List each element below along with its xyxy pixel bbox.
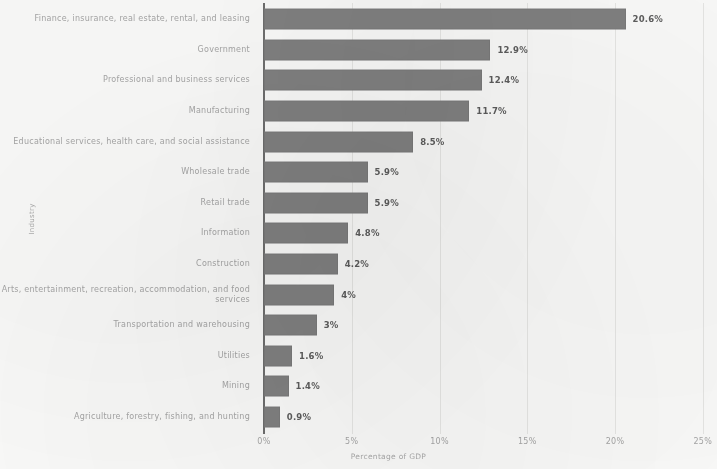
table-row: Professional and business services12.4%: [0, 65, 717, 96]
bar: [264, 376, 289, 397]
table-row: Wholesale trade5.9%: [0, 157, 717, 188]
x-tick-label: 25%: [693, 437, 712, 446]
bar-value-label: 5.9%: [375, 167, 399, 177]
bar: [264, 131, 413, 152]
bar: [264, 9, 626, 30]
bar: [264, 70, 482, 91]
category-label: Wholesale trade: [0, 167, 256, 178]
x-tick-label: 10%: [430, 437, 449, 446]
x-tick-label: 5%: [345, 437, 358, 446]
category-label: Arts, entertainment, recreation, accommo…: [0, 284, 256, 305]
bar: [264, 254, 338, 275]
x-axis-title: Percentage of GDP: [0, 452, 717, 461]
x-tick-label: 0%: [257, 437, 270, 446]
bar-value-label: 12.9%: [497, 45, 528, 55]
bar-value-label: 1.6%: [299, 351, 323, 361]
table-row: Mining1.4%: [0, 371, 717, 402]
bar-value-label: 20.6%: [633, 14, 664, 24]
bar-value-label: 1.4%: [296, 381, 320, 391]
bar-value-label: 8.5%: [420, 137, 444, 147]
x-axis-title-label: Percentage of GDP: [291, 452, 426, 461]
category-label: Information: [0, 228, 256, 239]
table-row: Manufacturing11.7%: [0, 96, 717, 127]
bar-value-label: 4.2%: [345, 259, 369, 269]
category-label: Government: [0, 45, 256, 56]
table-row: Transportation and warehousing3%: [0, 310, 717, 341]
bar: [264, 407, 280, 428]
category-label: Mining: [0, 381, 256, 392]
category-label: Utilities: [0, 351, 256, 362]
table-row: Retail trade5.9%: [0, 188, 717, 219]
category-label: Manufacturing: [0, 106, 256, 117]
bar: [264, 192, 368, 213]
bar-value-label: 3%: [324, 320, 339, 330]
category-label: Retail trade: [0, 198, 256, 209]
category-label: Professional and business services: [0, 75, 256, 86]
x-axis-ticks: 0%5%10%15%20%25%: [0, 437, 717, 451]
bar-value-label: 5.9%: [375, 198, 399, 208]
bar: [264, 101, 469, 122]
bar-value-label: 11.7%: [476, 106, 507, 116]
bar-value-label: 12.4%: [489, 75, 520, 85]
table-row: Government12.9%: [0, 35, 717, 66]
bar: [264, 223, 348, 244]
bar: [264, 345, 292, 366]
category-label: Educational services, health care, and s…: [0, 136, 256, 147]
bar-chart: Industry Finance, insurance, real estate…: [0, 0, 717, 469]
category-label: Transportation and warehousing: [0, 320, 256, 331]
table-row: Utilities1.6%: [0, 341, 717, 372]
bar: [264, 284, 334, 305]
bar: [264, 39, 490, 60]
category-label: Construction: [0, 259, 256, 270]
table-row: Agriculture, forestry, fishing, and hunt…: [0, 402, 717, 433]
bar: [264, 162, 368, 183]
x-tick-label: 20%: [606, 437, 625, 446]
table-row: Educational services, health care, and s…: [0, 126, 717, 157]
bar-value-label: 4%: [341, 290, 356, 300]
category-label: Finance, insurance, real estate, rental,…: [0, 14, 256, 25]
bar: [264, 315, 317, 336]
x-tick-label: 15%: [518, 437, 537, 446]
bar-value-label: 0.9%: [287, 412, 311, 422]
table-row: Construction4.2%: [0, 249, 717, 280]
table-row: Arts, entertainment, recreation, accommo…: [0, 279, 717, 310]
table-row: Information4.8%: [0, 218, 717, 249]
bar-value-label: 4.8%: [355, 228, 379, 238]
table-row: Finance, insurance, real estate, rental,…: [0, 4, 717, 35]
category-label: Agriculture, forestry, fishing, and hunt…: [0, 412, 256, 423]
